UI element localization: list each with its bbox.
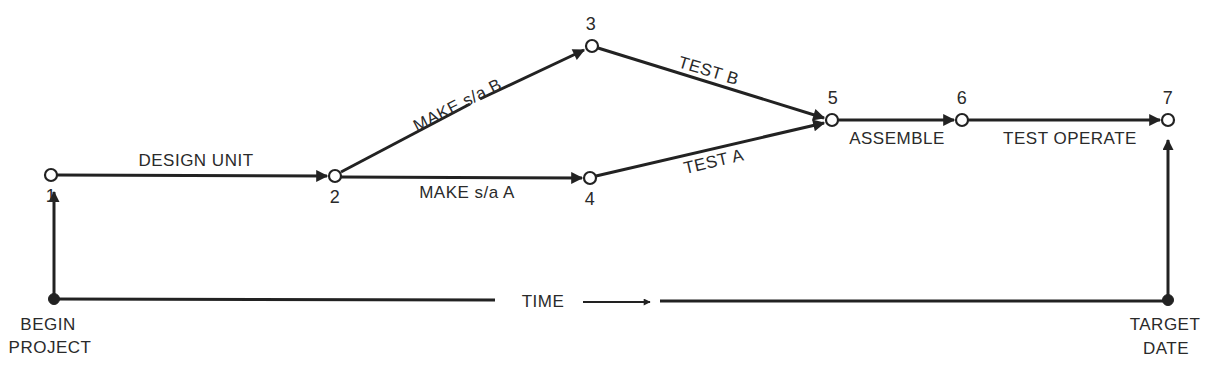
- node-label-5: 5: [828, 88, 839, 108]
- node-4: [584, 172, 596, 184]
- diagram-canvas: 1 2 3 4 5 6 7 DESIGN UNIT MAKE s/a B MAK…: [0, 0, 1219, 372]
- edge-1-2: [57, 175, 327, 176]
- node-label-1: 1: [46, 186, 57, 206]
- begin-label-line2: PROJECT: [9, 338, 92, 357]
- node-6: [956, 114, 968, 126]
- begin-project-dot: [49, 294, 60, 305]
- timeline-line-left: [54, 299, 495, 300]
- begin-label-line1: BEGIN: [20, 315, 75, 334]
- node-3: [586, 40, 598, 52]
- node-2: [329, 170, 341, 182]
- node-label-4: 4: [585, 189, 596, 209]
- network-diagram: 1 2 3 4 5 6 7 DESIGN UNIT MAKE s/a B MAK…: [0, 0, 1219, 372]
- target-label-line1: TARGET: [1130, 315, 1201, 334]
- node-5: [826, 114, 838, 126]
- node-label-6: 6: [957, 88, 968, 108]
- activity-label-assemble: ASSEMBLE: [849, 129, 945, 148]
- node-labels: 1 2 3 4 5 6 7: [46, 14, 1174, 209]
- time-label: TIME: [522, 292, 565, 311]
- activity-label-test-a: TEST A: [682, 145, 746, 177]
- target-label-line2: DATE: [1143, 339, 1189, 358]
- node-7: [1162, 114, 1174, 126]
- node-label-7: 7: [1163, 88, 1174, 108]
- target-date-dot: [1163, 295, 1174, 306]
- node-label-3: 3: [586, 14, 597, 34]
- activity-label-make-sa-a: MAKE s/a A: [419, 183, 515, 202]
- activity-label-design-unit: DESIGN UNIT: [138, 151, 253, 170]
- edge-2-4: [341, 177, 582, 178]
- edge-3-5: [598, 48, 824, 118]
- activity-label-test-operate: TEST OPERATE: [1003, 129, 1137, 148]
- activity-label-make-sa-b: MAKE s/a B: [410, 75, 505, 136]
- node-label-2: 2: [330, 187, 341, 207]
- activity-labels: DESIGN UNIT MAKE s/a B MAKE s/a A TEST B…: [138, 53, 1136, 202]
- node-1: [45, 169, 57, 181]
